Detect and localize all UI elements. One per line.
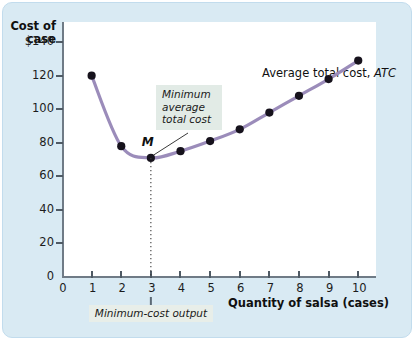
data-point-8 bbox=[295, 92, 303, 100]
callout-line-2: average bbox=[162, 101, 217, 114]
atc-curve-line bbox=[92, 61, 359, 158]
data-point-markers bbox=[88, 56, 363, 161]
callout-line-3: total cost bbox=[162, 113, 217, 126]
data-point-7 bbox=[265, 108, 273, 116]
data-point-9 bbox=[325, 75, 333, 83]
data-point-10 bbox=[354, 56, 362, 64]
data-point-6 bbox=[236, 125, 244, 133]
callout-minimum-average-total-cost: Minimum average total cost bbox=[156, 85, 222, 130]
callout-line-1: Minimum bbox=[162, 88, 217, 101]
figure-average-total-cost-chart: Cost of case 020406080100120$140 0123456… bbox=[0, 0, 416, 344]
point-m-label: M bbox=[142, 135, 154, 149]
callout-minimum-cost-output: Minimum-cost output bbox=[89, 305, 213, 322]
data-point-1 bbox=[88, 72, 96, 80]
chart-graphics-overlay bbox=[0, 0, 416, 344]
data-point-5 bbox=[206, 137, 214, 145]
data-point-4 bbox=[176, 147, 184, 155]
data-point-2 bbox=[117, 142, 125, 150]
